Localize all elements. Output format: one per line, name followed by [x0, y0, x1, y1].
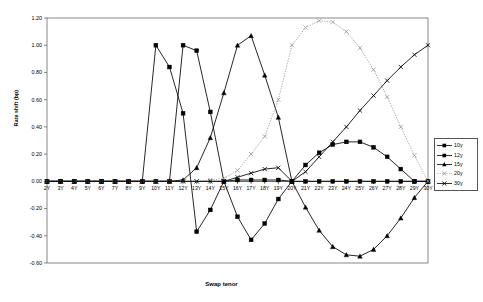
x-tick-label: 27Y — [383, 185, 393, 191]
data-point — [276, 178, 280, 182]
x-tick-label: 26Y — [369, 185, 379, 191]
y-tick-label: -0.20 — [30, 205, 42, 211]
y-tick-label: 0.60 — [32, 97, 43, 103]
data-point — [222, 91, 227, 95]
data-point — [371, 93, 375, 97]
data-point — [412, 153, 416, 157]
data-point — [317, 19, 321, 23]
data-point — [249, 178, 253, 182]
data-point — [249, 33, 254, 37]
x-tick-label: 16Y — [233, 185, 243, 191]
y-axis-title: Rate shift (bp) — [13, 68, 19, 148]
data-point — [344, 125, 348, 129]
data-point — [331, 179, 335, 183]
x-tick-label: 23Y — [328, 185, 338, 191]
x-tick-label: 7Y — [112, 185, 119, 191]
x-tick-label: 21Y — [301, 185, 311, 191]
chart-plot: 1.201.000.800.600.400.200.00-0.20-0.40-0… — [0, 0, 483, 302]
data-point — [276, 98, 280, 102]
y-tick-label: 1.00 — [32, 42, 43, 48]
x-tick-label: 14Y — [206, 185, 216, 191]
x-tick-label: 19Y — [274, 185, 284, 191]
x-tick-label: 18Y — [260, 185, 270, 191]
y-tick-label: 0.00 — [32, 178, 43, 184]
data-point — [372, 145, 376, 149]
legend-label-10y: 10y — [452, 141, 463, 150]
x-tick-label: 17Y — [246, 185, 256, 191]
legend-marker-square-icon — [437, 151, 452, 160]
data-point — [358, 108, 362, 112]
data-point — [317, 155, 321, 159]
data-point — [235, 168, 239, 172]
data-point — [385, 155, 389, 159]
x-tick-label: 5Y — [85, 185, 92, 191]
data-point — [372, 179, 376, 183]
data-point — [249, 152, 253, 156]
legend-item-12y[interactable]: 12y — [437, 150, 475, 159]
data-point — [412, 53, 416, 57]
data-point — [412, 179, 416, 183]
data-point — [208, 110, 212, 114]
data-point — [249, 238, 253, 242]
legend-marker-cross-icon — [437, 179, 452, 188]
x-tick-label: 29Y — [410, 185, 420, 191]
legend-marker-triangle-icon — [437, 160, 452, 169]
y-tick-label: 1.20 — [32, 15, 43, 21]
x-axis-title-text: Swap tenor — [205, 281, 237, 287]
legend-item-10y[interactable]: 10y — [437, 141, 475, 150]
legend-label-12y: 12y — [452, 151, 463, 160]
data-point — [235, 43, 240, 47]
data-point — [317, 151, 321, 155]
y-tick-label: 0.80 — [32, 69, 43, 75]
data-point — [385, 79, 389, 83]
data-point — [358, 140, 362, 144]
legend-marker-cross-icon — [437, 169, 452, 178]
legend-label-30y: 30y — [452, 179, 463, 188]
data-point — [399, 179, 403, 183]
data-point — [208, 135, 213, 139]
data-point — [195, 230, 199, 234]
series-30y — [45, 43, 430, 183]
data-point — [399, 167, 403, 171]
data-point — [276, 197, 280, 201]
x-tick-label: 22Y — [315, 185, 325, 191]
data-point — [317, 228, 322, 232]
legend-label-15y: 15y — [452, 160, 463, 169]
data-point — [399, 65, 403, 69]
data-point — [303, 25, 307, 29]
data-point — [304, 163, 308, 167]
data-point — [303, 170, 307, 174]
x-tick-label: 3Y — [57, 185, 64, 191]
x-tick-label: 6Y — [98, 185, 105, 191]
series-12y — [45, 43, 430, 241]
chart-legend: 10y 12y 15y 20y 30y — [434, 138, 478, 191]
data-point — [344, 140, 348, 144]
data-point — [168, 65, 172, 69]
data-point — [331, 20, 335, 24]
data-point — [262, 73, 267, 77]
data-point — [181, 111, 185, 115]
legend-item-20y[interactable]: 20y — [437, 169, 475, 178]
x-tick-label: 8Y — [125, 185, 132, 191]
chart-container: 1.201.000.800.600.400.200.00-0.20-0.40-0… — [0, 0, 483, 302]
x-tick-label: 30Y — [423, 185, 433, 191]
data-point — [358, 179, 362, 183]
data-point — [303, 205, 308, 209]
x-tick-label: 25Y — [355, 185, 365, 191]
legend-item-30y[interactable]: 30y — [437, 179, 475, 188]
data-point — [195, 49, 199, 53]
data-point — [263, 178, 267, 182]
data-point — [276, 115, 281, 119]
data-point — [371, 68, 375, 72]
x-tick-label: 9Y — [139, 185, 146, 191]
legend-marker-square-icon — [437, 141, 452, 150]
y-tick-label: 0.20 — [32, 151, 43, 157]
x-tick-label: 13Y — [192, 185, 202, 191]
x-axis-title: Swap tenor — [0, 281, 483, 287]
legend-item-15y[interactable]: 15y — [437, 160, 475, 169]
data-point — [344, 179, 348, 183]
x-tick-label: 2Y — [44, 185, 51, 191]
x-tick-label: 10Y — [151, 185, 161, 191]
data-point — [208, 208, 212, 212]
data-point — [399, 125, 403, 129]
